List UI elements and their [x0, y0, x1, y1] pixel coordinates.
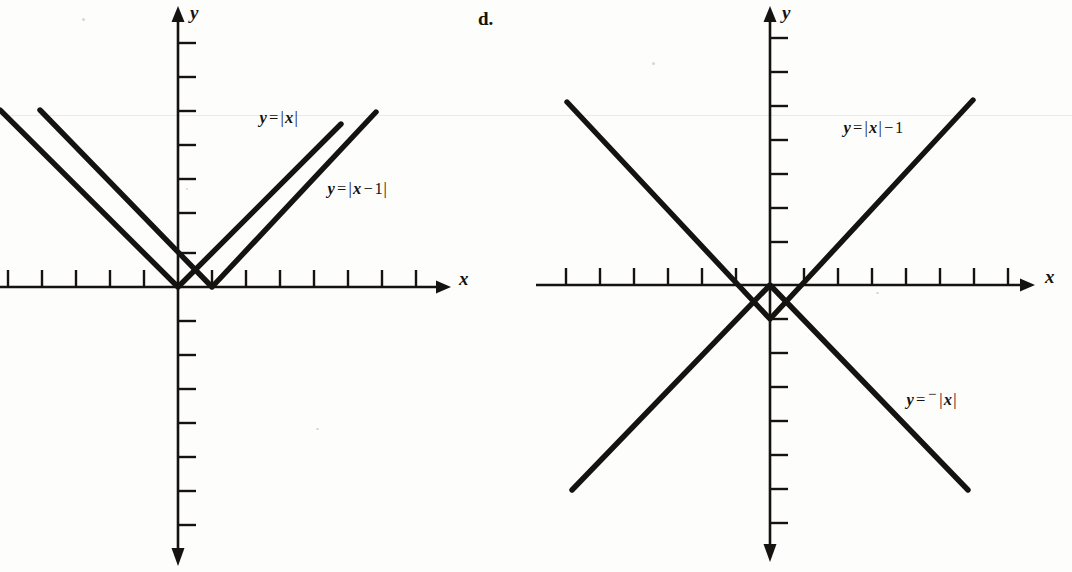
- right-graph-panel: x y y=|x|−1 y=−|x|: [536, 0, 1072, 572]
- right-label-operator: −: [883, 118, 896, 137]
- right-graph-svg: [536, 0, 1072, 572]
- figure-root: d.: [0, 0, 1072, 572]
- right-label2-lhs: y: [906, 390, 915, 409]
- right-label-bar-close: |: [878, 118, 883, 137]
- right-y-axis-ticks: [770, 38, 788, 523]
- left-label-bar-open: |: [280, 108, 285, 127]
- left-y-axis-arrowhead-down: [172, 548, 185, 566]
- left-label-bar-close: |: [294, 108, 299, 127]
- right-label2-var: x: [943, 390, 952, 409]
- left-graph-panel: x y y=|x| y=|x−1|: [0, 0, 536, 572]
- right-curve-label-neg-abs-x: y=−|x|: [906, 386, 957, 410]
- left-label2-operator: −: [362, 179, 375, 198]
- left-curve-label-abs-x: y=|x|: [259, 108, 299, 128]
- left-label-var: x: [285, 108, 294, 127]
- right-label2-equals: =: [915, 390, 928, 409]
- left-curve-label-abs-x-minus-1: y=|x−1|: [327, 179, 388, 199]
- left-label2-equals: =: [336, 179, 349, 198]
- right-curve-label-abs-x-minus-1: y=|x|−1: [843, 118, 904, 138]
- right-y-axis-label: y: [782, 2, 790, 24]
- right-y-axis-arrowhead-up: [764, 6, 777, 22]
- right-label2-bar-close: |: [953, 390, 958, 409]
- left-label-lhs: y: [259, 108, 268, 127]
- right-label-lhs: y: [843, 118, 852, 137]
- left-y-axis-arrowhead-up: [172, 6, 185, 22]
- left-label2-bar-close: |: [383, 179, 388, 198]
- right-y-axis-arrowhead-down: [764, 544, 777, 562]
- right-x-axis-ticks: [566, 268, 1008, 285]
- left-graph-svg: [0, 0, 536, 572]
- left-x-axis-arrowhead: [436, 281, 451, 294]
- left-x-axis-label: x: [459, 268, 469, 290]
- left-curve-abs-x: [0, 110, 341, 287]
- right-label-bar-open: |: [864, 118, 869, 137]
- left-y-axis-label: y: [190, 2, 198, 24]
- left-label2-constant: 1: [375, 179, 383, 198]
- right-x-axis-arrowhead-right: [1020, 279, 1035, 292]
- right-label-equals: =: [852, 118, 865, 137]
- left-label2-var: x: [353, 179, 362, 198]
- left-label-equals: =: [268, 108, 281, 127]
- right-label-constant: 1: [895, 118, 903, 137]
- right-label-var: x: [869, 118, 878, 137]
- right-x-axis-label: x: [1045, 266, 1055, 288]
- left-label2-bar-open: |: [348, 179, 353, 198]
- right-label2-raised-negative: −: [927, 386, 939, 402]
- left-label2-lhs: y: [327, 179, 336, 198]
